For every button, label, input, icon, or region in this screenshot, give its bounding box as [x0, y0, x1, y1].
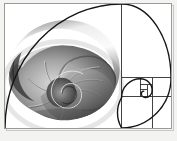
- spiral-arc-4: [117, 97, 121, 128]
- spiral-arc-5: [122, 79, 141, 98]
- spiral-arc-1: [5, 4, 122, 128]
- spiral-arc-2: [122, 4, 171, 78]
- figure-frame: [4, 3, 172, 129]
- golden-rectangle-gridlines: [122, 4, 171, 128]
- figure-container: Golden spiral over nautilus shell: [0, 0, 177, 141]
- spiral-arc-3: [122, 78, 171, 128]
- golden-ratio-overlay: [5, 4, 171, 128]
- spiral-arc-9: [141, 91, 143, 93]
- golden-spiral-curve: [5, 4, 171, 128]
